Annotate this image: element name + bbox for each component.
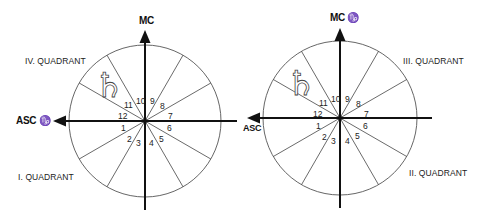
asc-arrow-icon [247,113,260,124]
svg-text:4: 4 [149,138,154,148]
right-mc-label: MC ♑ [330,12,359,23]
left-asc-label: ASC ♑ [16,115,50,126]
svg-text:10: 10 [331,94,341,104]
svg-text:11: 11 [124,100,133,110]
quadrant-iii-label: III. QUADRANT [403,56,464,66]
svg-text:8: 8 [160,101,165,111]
svg-text:1: 1 [316,121,321,131]
svg-text:9: 9 [345,94,350,104]
svg-text:6: 6 [363,121,368,131]
svg-text:1: 1 [121,123,126,133]
left-mc-label: MC [139,15,154,26]
svg-text:5: 5 [355,131,360,141]
svg-text:10: 10 [136,96,146,106]
saturn-icon: ♄ [94,65,124,105]
right-asc-label: ASC [243,123,261,133]
saturn-icon: ♄ [286,63,316,103]
svg-text:12: 12 [313,109,323,119]
quadrant-ii-label: II. QUADRANT [409,168,467,178]
right-house-wheel: 1 2 3 4 5 6 7 8 9 10 11 12 ♄ [247,28,432,208]
svg-text:4: 4 [345,136,350,146]
svg-text:2: 2 [322,132,327,142]
asc-arrow-icon [53,116,66,127]
svg-text:3: 3 [136,138,141,148]
mc-arrow-icon [140,30,151,43]
svg-text:8: 8 [356,99,361,109]
svg-text:5: 5 [159,134,164,144]
svg-text:7: 7 [168,111,173,121]
house-diagrams: 1 2 3 4 5 6 7 8 9 10 11 12 ♄ 1 [0,0,486,221]
svg-text:6: 6 [167,123,172,133]
svg-text:11: 11 [319,98,328,108]
quadrant-iv-label: IV. QUADRANT [25,56,86,66]
svg-text:7: 7 [364,109,369,119]
mc-arrow-icon [335,28,346,41]
svg-text:12: 12 [118,111,128,121]
quadrant-i-label: I. QUADRANT [18,172,74,182]
svg-text:2: 2 [127,134,132,144]
svg-text:3: 3 [331,136,336,146]
svg-text:9: 9 [150,96,155,106]
